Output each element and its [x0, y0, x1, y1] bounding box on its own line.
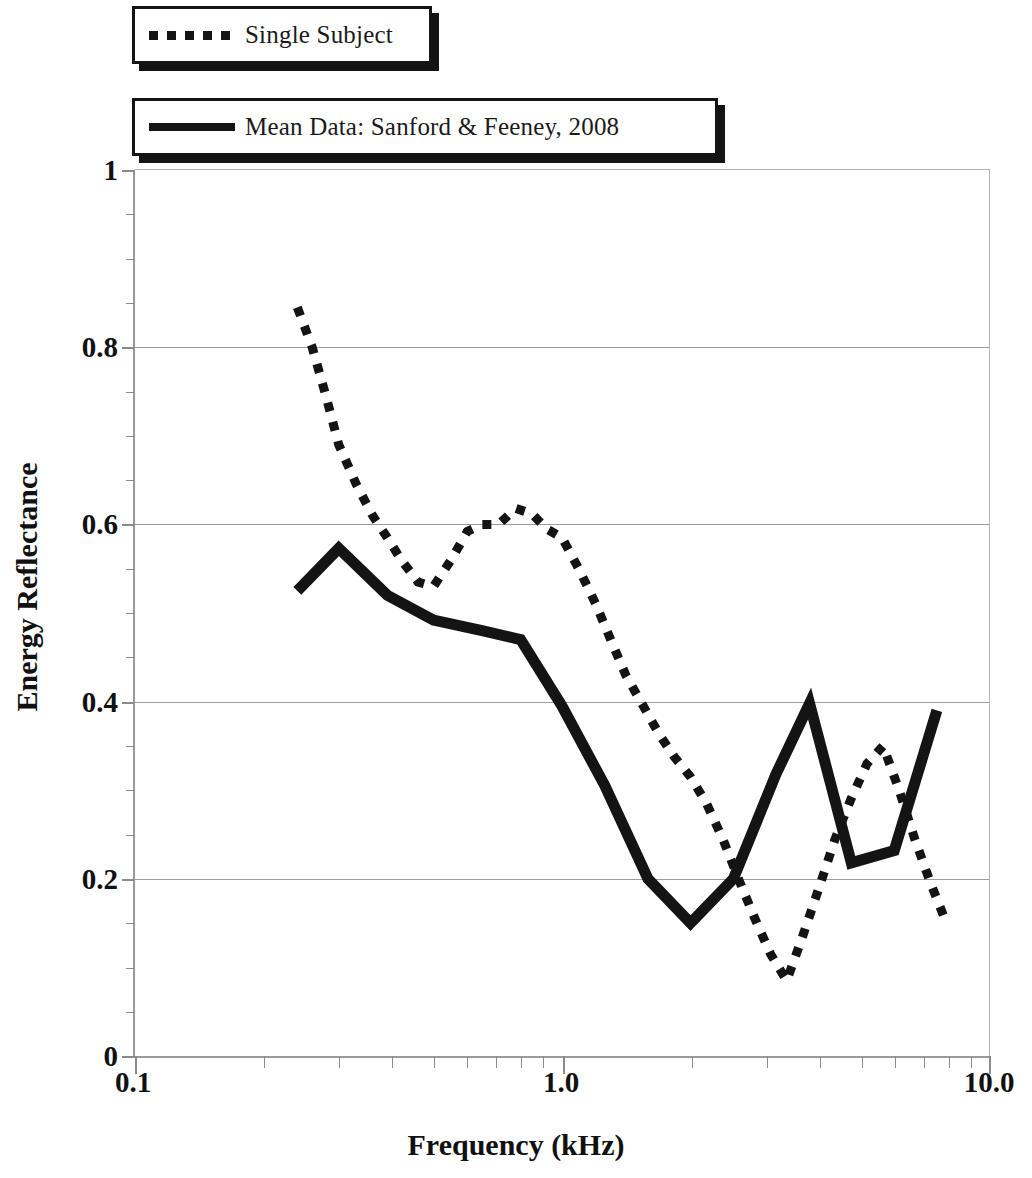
y-tick-0	[122, 1056, 135, 1058]
legend-swatch-dotted-icon	[149, 31, 235, 40]
y-tick-0-3	[126, 790, 135, 791]
x-tick-6	[895, 1056, 896, 1068]
x-axis-tick-labels: 0.1 1.0 10.0	[0, 1068, 1032, 1112]
y-tick-0-55	[126, 569, 135, 570]
x-tick-2	[692, 1056, 693, 1068]
x-tick-0-7	[496, 1056, 497, 1068]
x-tick-label-0-1: 0.1	[115, 1068, 151, 1097]
y-tick-0-1	[126, 968, 135, 969]
y-tick-0-2	[122, 879, 135, 881]
legend-entry-single-subject: Single Subject	[132, 6, 432, 64]
y-tick-0-4	[122, 702, 135, 704]
y-tick-label-0: 0	[0, 1042, 118, 1071]
y-tick-0-65	[126, 480, 135, 481]
y-tick-0-45	[126, 657, 135, 658]
legend-label-single-subject: Single Subject	[245, 21, 393, 49]
y-tick-0-05	[126, 1012, 135, 1013]
y-tick-0-35	[126, 746, 135, 747]
y-tick-0-7	[126, 436, 135, 437]
y-tick-label-0-2: 0.2	[0, 865, 118, 894]
y-tick-0-25	[126, 835, 135, 836]
x-tick-0-3	[339, 1056, 340, 1068]
y-axis-title: Energy Reflectance	[10, 377, 44, 797]
y-tick-0-8	[122, 347, 135, 349]
y-tick-label-1: 1	[0, 156, 118, 185]
y-tick-0-75	[126, 392, 135, 393]
legend-swatch-solid-icon	[149, 123, 235, 131]
y-tick-0-6	[122, 524, 135, 526]
x-tick-3	[767, 1056, 768, 1068]
y-tick-1	[122, 170, 135, 172]
x-tick-8	[949, 1056, 950, 1068]
series-line-mean-data	[297, 548, 937, 923]
x-tick-label-10-0: 10.0	[964, 1068, 1015, 1097]
legend-label-mean-data: Mean Data: Sanford & Feeney, 2008	[245, 113, 619, 141]
x-tick-5	[862, 1056, 863, 1068]
x-axis-title: Frequency (kHz)	[0, 1128, 1032, 1162]
x-tick-0-8	[521, 1056, 522, 1068]
x-tick-4	[820, 1056, 821, 1068]
x-tick-label-1-0: 1.0	[543, 1068, 579, 1097]
plot-area	[133, 170, 989, 1058]
y-tick-0-85	[126, 303, 135, 304]
y-tick-0-5	[126, 613, 135, 614]
legend-entry-mean-data: Mean Data: Sanford & Feeney, 2008	[132, 98, 718, 156]
x-tick-0-6	[467, 1056, 468, 1068]
x-tick-7	[924, 1056, 925, 1068]
y-tick-0-95	[126, 214, 135, 215]
y-tick-0-15	[126, 923, 135, 924]
x-tick-0-5	[434, 1056, 435, 1068]
y-tick-label-0-8: 0.8	[0, 333, 118, 362]
x-tick-0-4	[392, 1056, 393, 1068]
x-tick-0-2	[264, 1056, 265, 1068]
series-line-single-subject	[297, 307, 946, 980]
y-tick-0-9	[126, 259, 135, 260]
data-series-layer	[135, 170, 989, 1056]
